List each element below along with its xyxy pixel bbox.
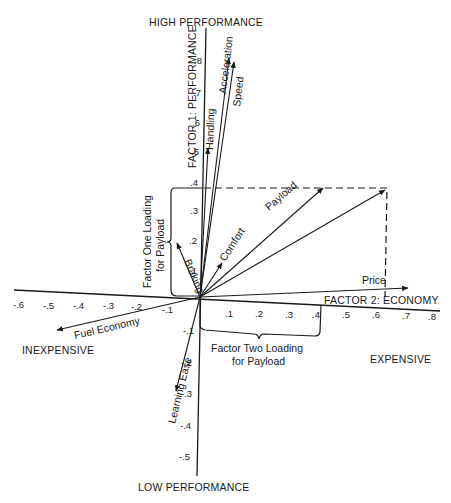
label-speed: Speed [230, 75, 246, 107]
svg-text:-.5: -.5 [179, 451, 190, 462]
svg-text:.8: .8 [194, 55, 202, 66]
x-ticks-positive: .1 .2 .3 .4 .5 .6 .7 .8 [225, 308, 436, 322]
svg-text:.2: .2 [189, 235, 197, 246]
pole-expensive: EXPENSIVE [370, 353, 431, 365]
svg-text:-.3: -.3 [103, 300, 114, 311]
svg-text:.3: .3 [190, 205, 198, 216]
factor-one-loading-line2: for Payload [154, 219, 166, 272]
svg-text:.7: .7 [193, 87, 201, 98]
pole-inexpensive: INEXPENSIVE [22, 344, 94, 356]
svg-text:.6: .6 [372, 309, 380, 320]
svg-text:.1: .1 [225, 308, 233, 319]
svg-text:.5: .5 [191, 146, 199, 157]
factor-two-loading-line2: for Payload [232, 355, 285, 367]
pole-high-performance: HIGH PERFORMANCE [149, 16, 263, 28]
factor2-axis-label: FACTOR 2: ECONOMY [324, 294, 439, 306]
factor-loading-diagram: HIGH PERFORMANCE LOW PERFORMANCE INEXPEN… [0, 0, 451, 503]
svg-text:-.4: -.4 [180, 420, 191, 431]
svg-text:.2: .2 [255, 308, 263, 319]
svg-text:.7: .7 [402, 310, 410, 321]
label-comfort: Comfort [217, 225, 247, 263]
factor-two-bracket [200, 300, 321, 339]
label-handling: Handling [203, 108, 216, 150]
svg-text:-.6: -.6 [13, 299, 24, 310]
svg-text:-.4: -.4 [73, 300, 84, 311]
svg-text:-.5: -.5 [43, 300, 54, 311]
vector-payload [200, 188, 323, 297]
pole-low-performance: LOW PERFORMANCE [138, 481, 250, 493]
svg-text:.6: .6 [192, 117, 200, 128]
label-payload: Payload [262, 178, 299, 212]
factor-two-loading-line1: Factor Two Loading [211, 342, 303, 354]
svg-text:.4: .4 [312, 309, 320, 320]
svg-text:.3: .3 [285, 309, 293, 320]
svg-text:.4: .4 [190, 177, 198, 188]
svg-text:.5: .5 [342, 309, 350, 320]
factor-one-loading-line1: Factor One Loading [141, 195, 153, 288]
label-price: Price [362, 274, 386, 286]
x-ticks-negative: -.6 -.5 -.4 -.3 -.2 -.1 [13, 299, 173, 315]
svg-text:.8: .8 [428, 311, 436, 322]
